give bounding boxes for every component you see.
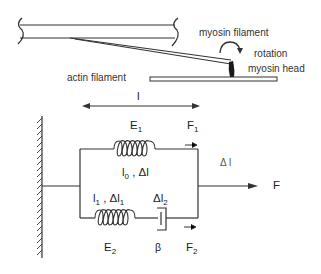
length-label: l bbox=[137, 91, 140, 103]
force-arrow-icon bbox=[248, 183, 258, 189]
myosin-head-label: myosin head bbox=[248, 64, 305, 74]
delta-l-label: Δ l bbox=[220, 158, 231, 168]
dashpot-beta bbox=[157, 208, 166, 230]
actin-filament-label: actin filament bbox=[67, 73, 126, 83]
f2-arrow-icon bbox=[184, 225, 196, 230]
actin-filament bbox=[150, 77, 277, 81]
diagram-canvas bbox=[0, 0, 321, 274]
myosin-filament-label: myosin filament bbox=[199, 28, 268, 38]
f1-arrow-icon bbox=[185, 143, 197, 148]
l0-delta-l-label: l0 , Δl bbox=[122, 167, 149, 181]
rotation-label: rotation bbox=[254, 49, 287, 59]
fixed-wall bbox=[37, 116, 42, 258]
e2-label: E2 bbox=[104, 242, 116, 256]
myosin-head bbox=[229, 61, 235, 77]
cross-bridge-lever bbox=[70, 38, 231, 64]
spring-e2 bbox=[95, 210, 135, 225]
rotation-arrow-icon bbox=[220, 42, 240, 53]
force-label: F bbox=[273, 180, 280, 192]
f1-label: F1 bbox=[187, 120, 198, 134]
beta-label: β bbox=[155, 242, 161, 253]
f2-label: F2 bbox=[186, 242, 197, 256]
spring-e1 bbox=[114, 141, 155, 156]
l1-delta-l1-label: l1 , Δl1 bbox=[93, 193, 124, 207]
e1-label: E1 bbox=[130, 120, 142, 134]
delta-l2-label: Δl2 bbox=[153, 193, 168, 207]
